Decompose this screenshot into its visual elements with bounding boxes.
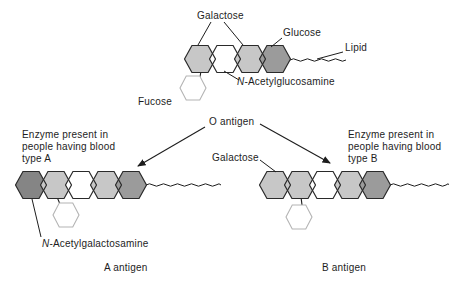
- label-o-antigen: O antigen: [209, 116, 254, 127]
- diagram-svg: Galactose Glucose Lipid Fucose N-Acetylg…: [0, 0, 469, 284]
- label-galactose-b: Galactose: [212, 152, 259, 163]
- n-acetylgalactosamine-leader: [32, 199, 41, 237]
- enzyme-b-text-line1: Enzyme present in: [348, 129, 434, 140]
- fucose-hexagon: [286, 205, 312, 229]
- enzyme-a-text-line2: people having blood: [22, 141, 115, 152]
- fucose-hexagon: [53, 203, 79, 227]
- label-glucose: Glucose: [283, 27, 321, 38]
- label-b-antigen: B antigen: [322, 262, 366, 273]
- o-antigen-structure: [180, 46, 346, 101]
- galactose-b-leader: [260, 160, 276, 172]
- galactose-leader-left: [198, 22, 211, 45]
- galactose-leader-right: [224, 22, 243, 45]
- b-antigen-structure: [260, 172, 449, 230]
- fucose-hexagon: [180, 76, 206, 100]
- enzyme-b-text-line2: people having blood: [348, 141, 441, 152]
- label-lipid: Lipid: [345, 42, 367, 53]
- arrow-to-a-antigen: [138, 127, 205, 166]
- label-fucose: Fucose: [138, 96, 172, 107]
- enzyme-a-text-line1: Enzyme present in: [22, 129, 108, 140]
- enzyme-b-text-line3: type B: [348, 153, 378, 164]
- label-galactose-top: Galactose: [197, 10, 244, 21]
- a-antigen-structure: [16, 172, 222, 228]
- label-n-acetylgalactosamine: N-Acetylgalactosamine: [42, 238, 149, 249]
- label-n-acetylglucosamine: N-Acetylglucosamine: [237, 76, 335, 87]
- lipid-wavy-line: [390, 184, 448, 186]
- lipid-leader: [317, 52, 343, 59]
- blood-antigen-diagram: Galactose Glucose Lipid Fucose N-Acetylg…: [0, 0, 469, 284]
- label-a-antigen: A antigen: [104, 262, 148, 273]
- lipid-wavy-line: [146, 184, 221, 186]
- enzyme-a-text-line3: type A: [22, 153, 51, 164]
- arrow-to-b-antigen: [260, 124, 330, 163]
